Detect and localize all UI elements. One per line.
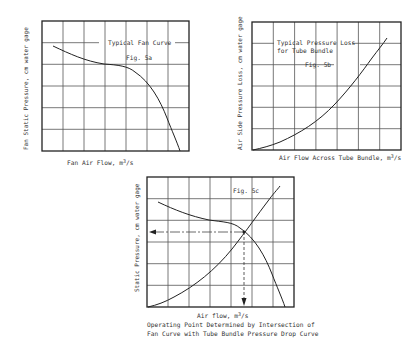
figure-canvas: Typical Fan Curve Fig. 5a Fan Air Flow, … xyxy=(0,0,418,349)
figlabel-fig5b: Fig. 5b xyxy=(305,61,331,69)
title-line1-fig5b: Typical Pressure Loss xyxy=(277,39,356,47)
ylabel-fig5a: Fan Static Pressure, cm water gage xyxy=(22,27,30,150)
ylabel-fig5b: Air Side Pressure Loss, cm water gage xyxy=(236,16,244,150)
chart-fig5b: Typical Pressure Loss for Tube Bundle Fi… xyxy=(236,16,402,161)
chart-fig5c: Fig. 5c Air flow, m3/s Operating Point D… xyxy=(133,177,319,338)
title-line2-fig5b: for Tube Bundle xyxy=(277,47,333,54)
fan-curve-fig5c xyxy=(158,202,285,307)
operating-point-marker xyxy=(243,231,246,234)
xlabel-fig5a: Fan Air Flow, m3/s xyxy=(67,158,134,167)
left-arrow-icon xyxy=(149,230,156,235)
xlabel-fig5b: Air Flow Across Tube Bundle, m3/s xyxy=(279,153,402,162)
caption-line1-fig5c: Operating Point Determined by Intersecti… xyxy=(147,321,315,329)
figlabel-fig5a: Fig. 5a xyxy=(126,54,152,62)
fan-curve-fig5a xyxy=(53,46,180,151)
ylabel-fig5c: Static Pressure, cm water gage xyxy=(133,183,141,292)
title-fig5a: Typical Fan Curve xyxy=(108,39,172,47)
down-arrow-icon xyxy=(242,298,247,306)
figlabel-fig5c: Fig. 5c xyxy=(233,187,259,195)
caption-line2-fig5c: Fan Curve with Tube Bundle Pressure Drop… xyxy=(147,330,319,338)
chart-fig5a: Typical Fan Curve Fig. 5a Fan Air Flow, … xyxy=(22,21,189,166)
xlabel-fig5c: Air flow, m3/s xyxy=(197,311,249,320)
